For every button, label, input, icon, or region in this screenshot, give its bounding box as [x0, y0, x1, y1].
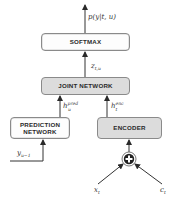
encoder-label: ENCODER	[113, 124, 145, 132]
prediction-network-box: PREDICTION NETWORK	[10, 117, 70, 139]
x-to-sum-arrow	[98, 164, 123, 184]
prediction-network-label-1: PREDICTION	[20, 121, 60, 129]
joint-network-box: JOINT NETWORK	[41, 77, 130, 95]
joint-network-label: JOINT NETWORK	[58, 82, 113, 90]
prediction-network-label-2: NETWORK	[23, 128, 56, 136]
encoder-box: ENCODER	[97, 117, 162, 139]
output-prob-label: p(y|t, u)	[88, 13, 116, 21]
softmax-box: SOFTMAX	[41, 33, 130, 51]
diagram-connectors	[0, 0, 176, 200]
input-x-label: xt	[94, 186, 100, 195]
input-c-label: ct	[160, 186, 166, 195]
softmax-label: SOFTMAX	[70, 38, 102, 46]
pred-output-label: hpredu	[63, 101, 71, 112]
enc-output-label: henct	[111, 101, 117, 112]
sum-node	[122, 152, 136, 166]
c-to-sum-arrow	[135, 164, 162, 184]
joint-output-label: zt,u	[91, 62, 101, 71]
pred-input-label: yu−1	[17, 149, 31, 158]
